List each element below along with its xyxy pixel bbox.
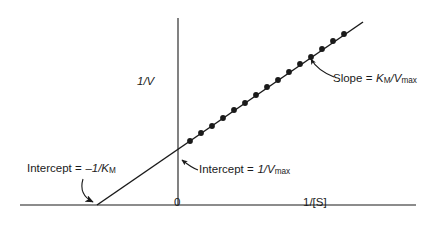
slope-arrow-path xyxy=(311,59,334,77)
data-point xyxy=(275,77,281,83)
y-axis-label: 1/V xyxy=(137,75,154,88)
intercept-km-prefix: Intercept xyxy=(27,162,72,174)
intercept-km-arrow-path xyxy=(82,179,93,202)
intercept-vmax-equals: = xyxy=(247,163,254,175)
x-axis-label-text: 1/[S] xyxy=(303,196,327,208)
axis-lines xyxy=(20,18,416,205)
slope-annotation: Slope = KM/Vmax xyxy=(333,72,417,85)
data-point xyxy=(253,92,259,98)
data-point xyxy=(286,69,292,75)
data-point xyxy=(297,61,303,67)
intercept-vmax-value: 1/V xyxy=(257,163,274,175)
origin-label-text: 0 xyxy=(174,196,180,208)
data-point xyxy=(198,130,204,136)
intercept-km-equals: = xyxy=(75,162,82,174)
slope-prefix: Slope xyxy=(333,72,362,84)
intercept-km-subscript: M xyxy=(109,166,116,175)
data-point xyxy=(264,84,270,90)
intercept-km-annotation: Intercept = –1/KM xyxy=(27,162,116,175)
data-point xyxy=(319,46,325,52)
x-axis-label: 1/[S] xyxy=(303,196,327,209)
y-axis-label-text: 1/V xyxy=(137,75,154,87)
intercept-vmax-pointer xyxy=(182,160,198,170)
data-point-group xyxy=(187,31,347,144)
slope-pointer xyxy=(311,59,334,77)
intercept-vmax-subscript: max xyxy=(275,167,290,176)
slope-denominator-subscript: max xyxy=(401,76,416,85)
data-point xyxy=(187,138,193,144)
intercept-km-value: –1/K xyxy=(85,162,109,174)
intercept-vmax-annotation: Intercept = 1/Vmax xyxy=(199,163,290,176)
slope-denominator: /V xyxy=(391,72,402,84)
data-point xyxy=(231,107,237,113)
lineweaver-burk-figure: 1/V 1/[S] 0 Intercept = –1/KM Intercept … xyxy=(0,0,437,242)
data-point xyxy=(341,31,347,37)
data-point xyxy=(209,123,215,129)
plot-canvas xyxy=(0,0,437,242)
slope-numerator-subscript: M xyxy=(384,76,391,85)
origin-label: 0 xyxy=(174,196,180,209)
slope-equals: = xyxy=(366,72,373,84)
intercept-vmax-prefix: Intercept xyxy=(199,163,244,175)
data-point xyxy=(330,38,336,44)
intercept-km-pointer xyxy=(82,179,93,202)
data-point xyxy=(242,100,248,106)
data-point xyxy=(220,115,226,121)
slope-numerator: K xyxy=(376,72,384,84)
intercept-vmax-arrow-path xyxy=(182,160,198,170)
